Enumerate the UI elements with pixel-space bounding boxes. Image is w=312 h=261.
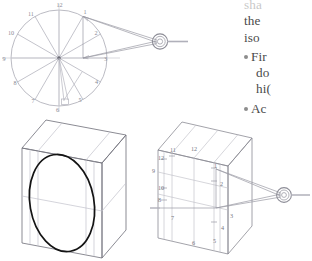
hour-label-1: 1 [214,162,217,169]
hour-label-12: 12 [57,1,63,8]
hour-label-6: 6 [192,239,195,246]
hour-label-12b: 12 [158,154,164,161]
hour-label-3: 3 [230,212,233,219]
hour-label-8: 8 [14,79,17,86]
hour-label-10: 10 [8,29,14,36]
bullet-text-ac: Ac [251,101,267,117]
clock-axes [2,4,120,112]
hour-label-9: 9 [152,167,155,174]
hour-label-10: 10 [158,184,164,191]
hour-grid-lines [158,125,238,252]
hour-label-4: 4 [221,224,224,231]
eye-icon [277,188,310,203]
isometric-box-with-clock-projection: 12 11 12 1 9 2 10 8 3 7 4 6 5 [150,112,312,261]
hour-label-12: 12 [191,145,197,152]
hour-label-2: 2 [220,180,223,187]
hour-label-11b: 11 [170,146,176,153]
hour-label-1: 1 [84,8,87,15]
hour-label-9: 9 [3,55,6,62]
isometric-box-with-ellipse [18,112,168,261]
hour-label-3: 3 [104,55,107,62]
ellipse-outline [22,149,102,257]
hour-label-5: 5 [79,96,82,103]
bullet-item-first: Fir [244,49,312,65]
box-inner-construction [22,123,126,257]
hour-label-7: 7 [171,214,174,221]
bullet-dot-icon [244,107,248,111]
hour-ticks [161,156,217,222]
hour-label-7: 7 [32,97,35,104]
box-outline [22,120,126,258]
document-page: 12 1 2 3 4 5 6 7 8 9 10 11 [0,0,312,261]
bullet-item-second: Ac [244,101,312,117]
text-line-iso: iso [244,30,312,46]
clock-hour-labels: 12 1 2 3 4 5 6 7 8 9 10 11 [3,1,108,113]
clipped-text-line: sha [244,0,312,13]
bullet-dot-icon [244,55,248,59]
hour-label-2: 2 [95,29,98,36]
eye-icon [152,34,188,49]
hour-label-4: 4 [95,78,98,85]
hour-label-11: 11 [28,10,34,17]
body-text-column: sha the iso Fir do hi( Ac [244,0,312,117]
hour-label-5: 5 [213,237,216,244]
clock-face-plan-diagram: 12 1 2 3 4 5 6 7 8 9 10 11 [0,0,200,118]
hour-label-8: 8 [158,196,161,203]
text-line-the: the [244,13,312,29]
text-line-hi: hi( [244,81,312,97]
text-line-do: do [244,65,312,81]
bullet-text-fir: Fir [251,49,267,65]
